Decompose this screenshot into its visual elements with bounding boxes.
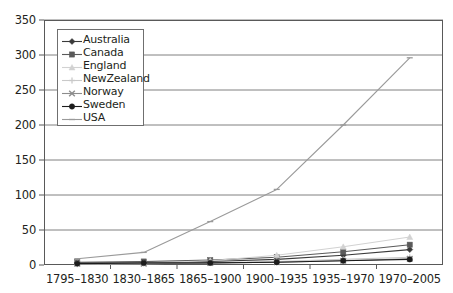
x-tick-label: 1830–1865	[111, 272, 178, 286]
legend-item-canada: Canada	[58, 46, 143, 59]
legend-label: USA	[83, 111, 105, 124]
legend-marker-x-icon	[61, 85, 83, 98]
legend-label: NewZealand	[83, 72, 150, 85]
x-tick-label: 1935–1970	[310, 272, 377, 286]
chart-legend: AustraliaCanadaEnglandNewZealandNorwaySw…	[57, 29, 144, 126]
legend-label: Sweden	[83, 98, 125, 111]
y-tick-label: 100	[2, 188, 36, 202]
y-tick-label: 250	[2, 83, 36, 97]
y-axis-ticks	[39, 20, 44, 265]
x-tick-label: 1900–1935	[244, 272, 311, 286]
legend-marker-triangle-icon	[61, 59, 83, 72]
legend-marker-line-icon	[61, 111, 83, 124]
y-tick-label: 50	[2, 223, 36, 237]
y-tick-label: 300	[2, 48, 36, 62]
x-axis-ticks	[111, 265, 377, 269]
y-tick-label: 0	[2, 258, 36, 272]
x-tick-label: 1970–2005	[377, 272, 444, 286]
y-tick-label: 350	[2, 13, 36, 27]
legend-item-usa: USA	[58, 111, 143, 124]
legend-marker-square-icon	[61, 46, 83, 59]
legend-marker-circle-icon	[61, 98, 83, 111]
legend-item-newzealand: NewZealand	[58, 72, 143, 85]
legend-label: Australia	[83, 33, 130, 46]
legend-item-sweden: Sweden	[58, 98, 143, 111]
y-tick-label: 200	[2, 118, 36, 132]
legend-label: Canada	[83, 46, 124, 59]
legend-label: England	[83, 59, 126, 72]
legend-item-australia: Australia	[58, 33, 143, 46]
legend-item-england: England	[58, 59, 143, 72]
x-tick-label: 1865–1900	[177, 272, 244, 286]
x-tick-label: 1795–1830	[44, 272, 111, 286]
legend-marker-diamond-icon	[61, 33, 83, 46]
y-tick-label: 150	[2, 153, 36, 167]
line-chart: 050100150200250300350 1795–18301830–1865…	[0, 0, 453, 293]
legend-label: Norway	[83, 85, 124, 98]
legend-marker-cross-icon	[61, 72, 83, 85]
legend-item-norway: Norway	[58, 85, 143, 98]
